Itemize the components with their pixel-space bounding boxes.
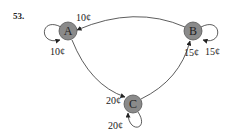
node-b: B [184,22,202,40]
node-a-label: A [64,24,73,38]
edge-c-to-b [141,41,190,99]
edge-c-self-loop [128,112,142,127]
node-c-label: C [129,97,137,111]
edge-a-to-c [72,40,125,97]
edge-a-self-loop [44,25,61,41]
node-b-label: B [189,24,197,38]
edge-label-c-self: 20¢ [108,120,123,131]
edge-label-c-to-b: 15¢ [184,47,199,58]
problem-number: 53. [13,11,24,21]
node-c: C [124,95,142,113]
edge-b-self-loop [201,25,218,41]
node-a: A [59,22,77,40]
edge-label-a-to-c: 20¢ [106,95,121,106]
edge-label-b-self: 15¢ [205,46,220,57]
edge-b-to-a [77,17,185,30]
state-diagram: 53. 10¢ 10¢ 15¢ 15¢ 20¢ 20¢ A B C [0,0,231,137]
edge-label-b-to-a: 10¢ [76,12,91,23]
edge-label-a-self: 10¢ [50,46,65,57]
